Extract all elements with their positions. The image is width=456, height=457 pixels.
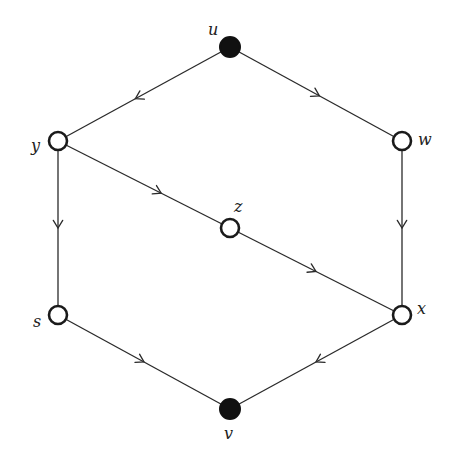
node-label-x: x xyxy=(417,299,426,318)
edge-y-z xyxy=(58,141,230,228)
directed-graph-diagram: uwyzsxv xyxy=(0,0,456,457)
node-label-z: z xyxy=(233,197,243,216)
node-s xyxy=(49,306,67,324)
node-x xyxy=(393,306,411,324)
node-label-y: y xyxy=(30,136,41,155)
node-z xyxy=(221,219,239,237)
node-label-s: s xyxy=(33,312,41,331)
node-label-u: u xyxy=(208,20,218,39)
node-label-w: w xyxy=(418,130,432,149)
node-y xyxy=(49,132,67,150)
node-u xyxy=(220,37,240,57)
node-v xyxy=(220,399,240,419)
edge-u-y xyxy=(58,47,230,141)
node-w xyxy=(393,132,411,150)
edge-u-w xyxy=(230,47,402,141)
nodes-layer xyxy=(49,37,411,419)
node-label-v: v xyxy=(224,424,233,443)
